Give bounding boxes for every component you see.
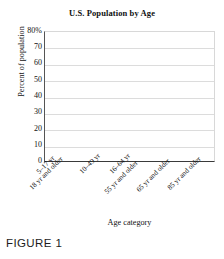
y-tick-label-80: 80% bbox=[2, 27, 42, 35]
plot-area bbox=[44, 31, 215, 162]
figure-caption: FIGURE 1 bbox=[6, 237, 62, 249]
gridline-40 bbox=[45, 98, 214, 99]
y-tick-label-30: 30 bbox=[2, 108, 42, 116]
gridline-60 bbox=[45, 65, 214, 66]
gridline-50 bbox=[45, 81, 214, 82]
gridline-30 bbox=[45, 114, 214, 115]
x-axis-label: Age category bbox=[44, 218, 215, 227]
y-tick-label-20: 20 bbox=[2, 125, 42, 133]
gridline-20 bbox=[45, 130, 214, 131]
y-tick-label-0: 0 bbox=[2, 157, 42, 165]
chart-title: U.S. Population by Age bbox=[0, 8, 224, 18]
gridline-70 bbox=[45, 48, 214, 49]
gridline-10 bbox=[45, 147, 214, 148]
x-tick-label-5: 65 yr and older bbox=[135, 157, 172, 194]
figure-container: U.S. Population by Age Percent of popula… bbox=[0, 0, 224, 259]
y-tick-label-40: 40 bbox=[2, 92, 42, 100]
y-tick-label-50: 50 bbox=[2, 76, 42, 84]
y-tick-label-60: 60 bbox=[2, 59, 42, 67]
y-tick-label-10: 10 bbox=[2, 141, 42, 149]
y-tick-label-70: 70 bbox=[2, 43, 42, 51]
